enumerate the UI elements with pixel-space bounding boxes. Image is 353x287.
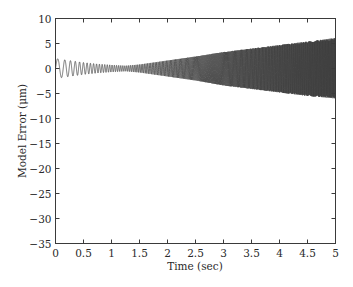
x-tick-label: 0 [52,247,59,259]
plot-area [56,38,336,98]
x-tick-label: 1 [108,247,115,259]
y-tick-label: 0 [45,63,52,75]
model-error-line [56,38,336,98]
x-tick-label: 4 [276,247,283,259]
x-tick-label: 3.5 [243,247,260,259]
y-tick-label: 5 [45,38,52,50]
y-tick-label: −5 [36,88,51,100]
x-tick-label: 3 [220,247,227,259]
x-tick-label: 2 [164,247,171,259]
y-tick-label: −25 [29,188,51,200]
x-tick-label: 1.5 [131,247,148,259]
y-axis-label: Model Error (μm) [16,84,28,178]
x-tick-label: 2.5 [187,247,204,259]
x-tick-label: 4.5 [299,247,316,259]
model-error-chart: 00.511.522.533.544.55 1050−5−10−15−20−25… [0,0,353,287]
x-tick-label: 0.5 [75,247,92,259]
x-tick-label: 5 [332,247,339,259]
x-axis-label: Time (sec) [167,260,223,272]
y-tick-label: −15 [29,138,51,150]
y-tick-label: −10 [29,113,51,125]
y-tick-label: 10 [38,13,51,25]
y-tick-label: −35 [29,238,51,250]
y-tick-label: −20 [29,163,51,175]
y-tick-label: −30 [29,213,51,225]
